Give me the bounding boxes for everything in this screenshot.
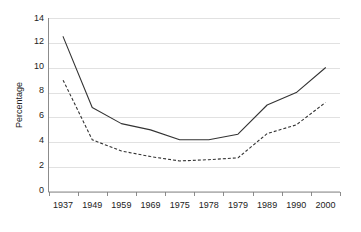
y-tick-label-6: 6 <box>39 110 44 120</box>
x-tick-label-1969: 1969 <box>141 200 161 210</box>
x-tick-label-1949: 1949 <box>82 200 102 210</box>
x-tick-label-1975: 1975 <box>170 200 190 210</box>
x-tick-labels-group: 1937194919591969197519781979198919902000 <box>53 200 335 210</box>
y-axis-title: Percentage <box>14 82 24 128</box>
x-tick-label-1959: 1959 <box>111 200 131 210</box>
y-tick-label-8: 8 <box>39 85 44 95</box>
y-tick-label-10: 10 <box>34 61 44 71</box>
series-line-solid <box>63 37 325 140</box>
line-chart: 0 2 4 6 8 10 12 14 193719491959196919751… <box>0 0 361 232</box>
x-tick-label-2000: 2000 <box>315 200 335 210</box>
x-tick-label-1979: 1979 <box>228 200 248 210</box>
chart-canvas: 0 2 4 6 8 10 12 14 193719491959196919751… <box>0 0 361 232</box>
y-tick-label-12: 12 <box>34 36 44 46</box>
y-tick-label-0: 0 <box>39 185 44 195</box>
gridlines-group <box>49 19 341 193</box>
x-tick-label-1989: 1989 <box>257 200 277 210</box>
y-tick-label-4: 4 <box>39 135 44 145</box>
y-tick-label-2: 2 <box>39 160 44 170</box>
y-tick-labels-group: 0 2 4 6 8 10 12 14 <box>34 13 44 195</box>
y-tick-label-14: 14 <box>34 13 44 23</box>
x-tick-label-1978: 1978 <box>199 200 219 210</box>
series-line-dashed <box>63 80 325 161</box>
x-tick-label-1990: 1990 <box>286 200 306 210</box>
x-tick-label-1937: 1937 <box>53 200 73 210</box>
